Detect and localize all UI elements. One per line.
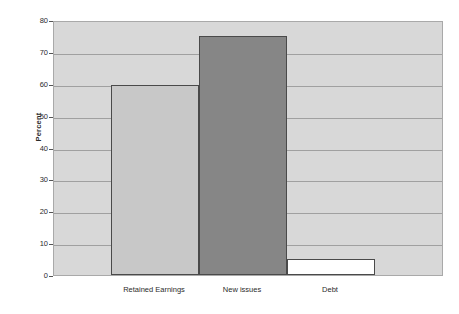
y-tick-label: 20 xyxy=(22,207,48,217)
y-tick-label: 80 xyxy=(22,16,48,26)
y-tick-mark xyxy=(49,276,53,277)
y-tick-label: 50 xyxy=(22,112,48,122)
x-tick-label: New issues xyxy=(198,284,286,296)
x-tick-label: Retained Earnings xyxy=(110,284,198,296)
y-tick-label: 0 xyxy=(22,271,48,281)
y-tick-label: 40 xyxy=(22,144,48,154)
bar xyxy=(199,36,287,275)
y-tick-label: 60 xyxy=(22,80,48,90)
x-tick-label: Debt xyxy=(286,284,374,296)
bar xyxy=(287,259,375,275)
bar-chart: Percent 01020304050607080 Retained Earni… xyxy=(0,0,459,314)
y-tick-label: 30 xyxy=(22,175,48,185)
bar xyxy=(111,85,199,275)
plot-area xyxy=(53,21,443,276)
y-tick-label: 70 xyxy=(22,48,48,58)
y-tick-label: 10 xyxy=(22,239,48,249)
